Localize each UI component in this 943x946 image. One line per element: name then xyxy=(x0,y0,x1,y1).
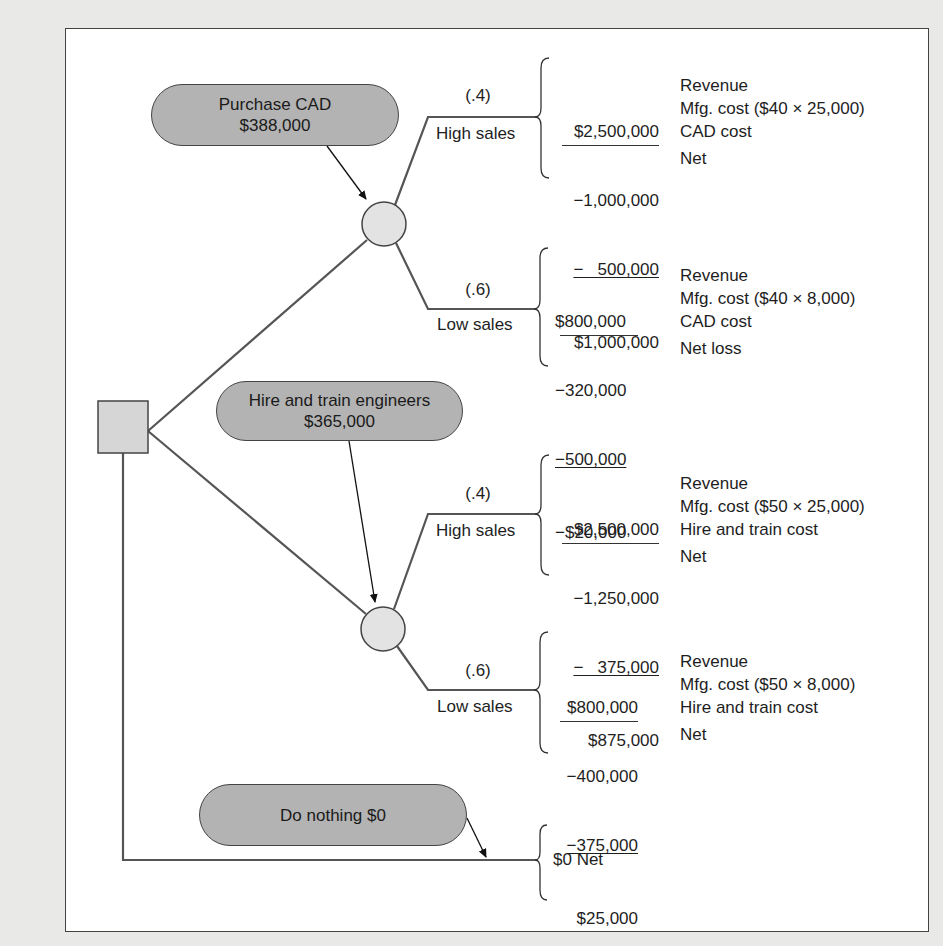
decision-node-square xyxy=(98,401,148,453)
alternative-cost: $365,000 xyxy=(304,411,375,432)
probability-label: (.4) xyxy=(458,86,498,106)
brace-hire-low xyxy=(534,632,548,753)
desc-revenue: Revenue xyxy=(680,264,855,287)
amount-revenue: $2,500,000 xyxy=(562,518,659,541)
desc-revenue: Revenue xyxy=(680,472,865,495)
desc-hire-train-cost: Hire and train cost xyxy=(680,518,865,541)
alternative-label: Do nothing $0 xyxy=(280,805,386,826)
desc-mfg-cost: Mfg. cost ($40 × 25,000) xyxy=(680,97,865,120)
amount-mfg-cost: −400,000 xyxy=(555,765,638,788)
outcome-name: Low sales xyxy=(437,697,513,717)
arrow-hire-train xyxy=(349,441,375,602)
alternative-purchase-cad: Purchase CAD $388,000 xyxy=(151,84,399,146)
desc-net-loss: Net loss xyxy=(680,337,855,360)
description-column: Revenue Mfg. cost ($50 × 25,000) Hire an… xyxy=(680,472,865,568)
desc-cad-cost: CAD cost xyxy=(680,120,865,143)
desc-cad-cost: CAD cost xyxy=(680,310,855,333)
amount-mfg-cost: −320,000 xyxy=(555,379,645,402)
desc-net: Net xyxy=(680,147,865,170)
sum-rule xyxy=(560,335,638,336)
amount-mfg-cost: −1,250,000 xyxy=(562,587,659,610)
desc-revenue: Revenue xyxy=(680,74,865,97)
amount-revenue: $2,500,000 xyxy=(562,120,659,143)
brace-do-nothing xyxy=(535,825,547,900)
outcome-name: Low sales xyxy=(437,315,513,335)
do-nothing-result: $0 Net xyxy=(553,850,603,870)
desc-mfg-cost: Mfg. cost ($40 × 8,000) xyxy=(680,287,855,310)
alternative-hire-train: Hire and train engineers $365,000 xyxy=(216,381,463,441)
amount-cad-cost: −500,000 xyxy=(555,448,645,471)
probability-label: (.6) xyxy=(458,280,498,300)
description-column: Revenue Mfg. cost ($50 × 8,000) Hire and… xyxy=(680,650,855,746)
amount-revenue: $800,000 xyxy=(555,696,638,719)
desc-mfg-cost: Mfg. cost ($50 × 25,000) xyxy=(680,495,865,518)
description-column: Revenue Mfg. cost ($40 × 25,000) CAD cos… xyxy=(680,74,865,170)
outcome-name: High sales xyxy=(436,521,515,541)
alternative-label: Hire and train engineers xyxy=(249,390,430,411)
probability-label: (.4) xyxy=(458,484,498,504)
sum-rule xyxy=(560,721,638,722)
probability-label: (.6) xyxy=(458,661,498,681)
sum-rule xyxy=(562,543,659,544)
amount-net: $25,000 xyxy=(555,907,638,930)
desc-net: Net xyxy=(680,723,855,746)
alternative-do-nothing: Do nothing $0 xyxy=(199,784,467,846)
brace-hire-high xyxy=(535,455,549,575)
sum-rule xyxy=(562,145,659,146)
outcome-name: High sales xyxy=(436,124,515,144)
chance-node-hire xyxy=(361,607,405,651)
alternative-label: Purchase CAD xyxy=(219,94,331,115)
desc-hire-train-cost: Hire and train cost xyxy=(680,696,855,719)
desc-revenue: Revenue xyxy=(680,650,855,673)
chance-node-cad xyxy=(362,202,406,246)
arrow-purchase-cad xyxy=(327,146,366,199)
amount-revenue: $800,000 xyxy=(555,310,645,333)
branch-hire-train xyxy=(148,431,366,614)
description-column: Revenue Mfg. cost ($40 × 8,000) CAD cost… xyxy=(680,264,855,360)
brace-cad-high xyxy=(535,58,549,178)
brace-cad-low xyxy=(534,248,548,366)
arrow-do-nothing xyxy=(467,818,486,857)
desc-net: Net xyxy=(680,545,865,568)
amount-column: $800,000 −400,000 −375,000 $25,000 xyxy=(555,650,638,946)
alternative-cost: $388,000 xyxy=(240,115,311,136)
desc-mfg-cost: Mfg. cost ($50 × 8,000) xyxy=(680,673,855,696)
amount-mfg-cost: −1,000,000 xyxy=(562,189,659,212)
